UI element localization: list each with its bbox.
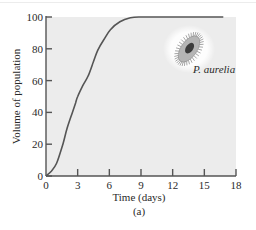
x-tick-label: 18 bbox=[231, 179, 243, 191]
y-tick-label: 80 bbox=[32, 43, 44, 55]
panel-label: (a) bbox=[133, 205, 146, 218]
x-tick-label: 0 bbox=[43, 179, 49, 191]
x-tick-label: 9 bbox=[138, 179, 144, 191]
x-axis-label: Time (days) bbox=[112, 191, 165, 204]
population-growth-chart: P. aurelia 020406080100 0369121518 Time … bbox=[0, 0, 256, 230]
y-tick-label: 100 bbox=[27, 11, 44, 23]
x-tick-label: 6 bbox=[107, 179, 113, 191]
x-tick-label: 15 bbox=[199, 179, 211, 191]
y-tick-label: 20 bbox=[32, 138, 44, 150]
y-tick-label: 60 bbox=[32, 75, 44, 87]
x-tick-label: 3 bbox=[75, 179, 81, 191]
y-tick-label: 40 bbox=[32, 106, 44, 118]
x-tick-label: 12 bbox=[167, 179, 178, 191]
species-annotation: P. aurelia bbox=[192, 63, 236, 75]
y-axis-label: Volume of population bbox=[10, 48, 22, 144]
